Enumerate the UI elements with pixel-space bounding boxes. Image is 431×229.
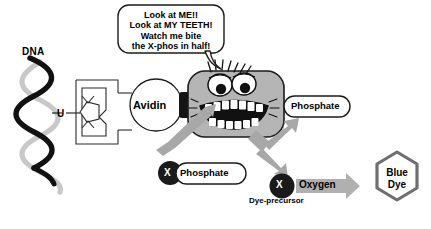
dye-precursor-label: Dye-precursor: [249, 196, 304, 205]
speech-bubble-text: Look at ME!! Look at MY TEETH! Watch me …: [123, 10, 219, 51]
oxygen-label: Oxygen: [299, 179, 336, 191]
avidin-label: Avidin: [133, 99, 166, 112]
blue-dye-label: Blue Dye: [379, 167, 415, 190]
dna-label: DNA: [22, 46, 45, 58]
x-substrate-label: X: [164, 167, 171, 179]
x-dye-precursor-label: X: [276, 179, 283, 191]
dna-helix-icon: [16, 58, 62, 192]
diagram-canvas: DNA U Avidin Look at ME!! Look at MY TEE…: [0, 0, 431, 229]
enzyme-monster-icon: [188, 60, 284, 137]
phosphate-substrate-label: Phosphate: [180, 168, 229, 179]
phosphate-released-label: Phosphate: [291, 101, 340, 112]
uracil-label: U: [57, 108, 64, 120]
biotin-linker-icon: [66, 80, 132, 144]
